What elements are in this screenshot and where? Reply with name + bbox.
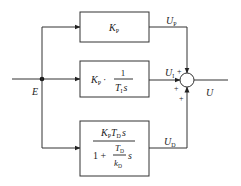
block-proportional: KP bbox=[80, 12, 149, 42]
sign-top: + bbox=[177, 67, 182, 76]
svg-text:1 +: 1 + bbox=[93, 150, 107, 161]
block-derivative: KPTDs 1 + TD kD s bbox=[80, 121, 149, 176]
summing-junction bbox=[180, 73, 194, 87]
svg-text:1: 1 bbox=[121, 68, 126, 78]
label-ud: UD bbox=[164, 136, 176, 148]
svg-text:s: s bbox=[128, 150, 132, 161]
label-up: UP bbox=[166, 15, 177, 27]
sign-bottom: + bbox=[179, 94, 184, 103]
pid-block-diagram: E KP KP· 1 TIs KPTDs 1 + TD kD bbox=[0, 0, 241, 186]
sign-left: + bbox=[174, 84, 179, 93]
output-label-u: U bbox=[206, 87, 214, 98]
label-ui: UI bbox=[165, 67, 174, 79]
svg-text:KPTDs: KPTDs bbox=[100, 127, 126, 139]
block-integral: KP· 1 TIs bbox=[80, 61, 149, 97]
input-label-e: E bbox=[31, 86, 38, 97]
